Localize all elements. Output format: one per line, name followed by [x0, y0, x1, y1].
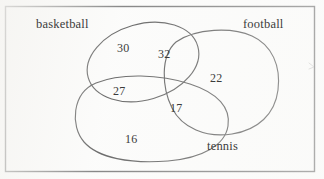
region-count-basketball-tennis: 27 — [113, 85, 125, 97]
set-curve-tennis — [75, 76, 228, 162]
region-count-basketball-only: 30 — [117, 42, 129, 54]
set-curve-basketball — [78, 10, 209, 114]
region-count-football-tennis: 17 — [170, 102, 182, 114]
region-count-football-only: 22 — [210, 72, 222, 84]
set-label-football: football — [243, 18, 283, 31]
set-label-tennis: tennis — [207, 140, 238, 153]
scan-artifact-mark — [309, 63, 314, 69]
diagram-frame-border — [6, 7, 315, 172]
set-label-basketball: basketball — [36, 18, 89, 31]
region-count-tennis-only: 16 — [125, 133, 137, 145]
venn-diagram-page: basketball football tennis 30 32 22 27 1… — [0, 0, 324, 179]
region-count-basketball-football: 32 — [158, 48, 170, 60]
